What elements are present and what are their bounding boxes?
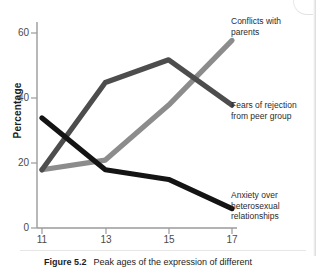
y-axis-title: Percentage: [12, 68, 23, 154]
x-tick-label-13: 13: [94, 234, 118, 245]
x-axis-ticks: [42, 228, 232, 234]
figure-number: Figure 5.2: [44, 257, 87, 267]
y-tick-label-60: 60: [7, 27, 29, 38]
x-tick-label-17: 17: [220, 234, 244, 245]
series-line-fears-of-rejection: [42, 60, 232, 170]
chart-plot-area: Percentage 60 40 20 0 11 13 15 17 Confli…: [0, 0, 316, 240]
series-annotation-fears-of-rejection: Fears of rejection from peer group: [231, 100, 297, 121]
x-tick-label-15: 15: [157, 234, 181, 245]
y-tick-label-40: 40: [7, 92, 29, 103]
figure-container: Percentage 60 40 20 0 11 13 15 17 Confli…: [0, 0, 316, 274]
figure-caption: Figure 5.2Peak ages of the expression of…: [44, 257, 252, 267]
series-annotation-anxiety-heterosexual: Anxiety over heterosexual relationships: [231, 190, 280, 222]
series-annotation-conflicts-with-parents: Conflicts with parents: [231, 16, 281, 37]
series-line-conflicts-with-parents: [42, 40, 232, 169]
figure-caption-text: Peak ages of the expression of different: [94, 257, 252, 267]
y-tick-label-0: 0: [7, 222, 29, 233]
y-axis-ticks: [31, 33, 37, 228]
caption-divider: [20, 250, 306, 251]
x-tick-label-11: 11: [30, 234, 54, 245]
y-tick-label-20: 20: [7, 157, 29, 168]
